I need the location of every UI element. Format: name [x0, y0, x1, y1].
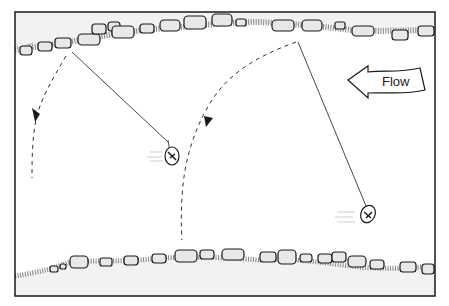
- river-diagram: Flow: [0, 0, 449, 306]
- flow-label: Flow: [382, 74, 410, 89]
